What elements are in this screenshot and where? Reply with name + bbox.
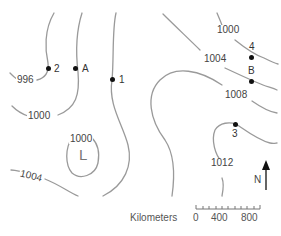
isobar-1004-main — [45, 13, 129, 196]
point-1-marker — [110, 77, 115, 82]
isobar-1008 — [151, 71, 222, 196]
isobar-1008-right — [252, 101, 277, 113]
scale-tick-0: 0 — [193, 213, 199, 223]
point-2-label: 2 — [54, 64, 60, 74]
point-B-marker — [249, 79, 254, 84]
point-1-label: 1 — [119, 75, 125, 85]
isobar-1000-left — [58, 13, 82, 115]
isobar-1012-lower — [222, 178, 223, 196]
isobar-1000-right-lower — [235, 40, 278, 64]
north-arrow-head-icon — [262, 160, 270, 170]
isobar-label-1000-low: 1000 — [69, 134, 93, 144]
point-B-label: B — [248, 66, 255, 76]
low-pressure-center: L — [79, 147, 87, 162]
isobar-label-1000-left: 1000 — [27, 111, 51, 121]
scale-title: Kilometers — [130, 213, 177, 223]
isobar-1000-left-tail — [12, 106, 28, 116]
isobar-label-1008: 1008 — [224, 90, 248, 100]
north-label: N — [254, 175, 261, 185]
isobar-label-1004-right: 1004 — [203, 54, 227, 64]
isobar-label-1012: 1012 — [210, 158, 234, 168]
point-4-marker — [249, 55, 254, 60]
isobar-label-1000-right: 1000 — [216, 25, 240, 35]
point-3-marker — [233, 122, 238, 127]
point-A-label: A — [82, 64, 89, 74]
scale-bar — [196, 205, 260, 209]
scale-tick-800: 800 — [241, 213, 258, 223]
scale-tick-400: 400 — [211, 213, 228, 223]
point-3-label: 3 — [232, 129, 238, 139]
point-4-label: 4 — [249, 42, 255, 52]
isobar-1004-right — [163, 14, 200, 50]
point-2-marker — [46, 66, 51, 71]
isobar-label-996: 996 — [16, 75, 35, 85]
point-A-marker — [73, 66, 78, 71]
